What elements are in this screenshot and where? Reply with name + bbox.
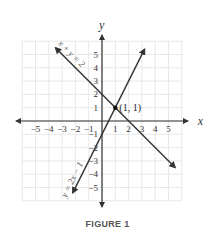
figure-caption: FIGURE 1 (0, 219, 215, 229)
y-tick-label: −1 (88, 129, 98, 139)
point-label: (1, 1) (119, 102, 141, 114)
series-label: y = 2x − 1 (59, 160, 85, 199)
x-tick-label: −5 (31, 124, 41, 134)
x-tick-label: −4 (44, 124, 54, 134)
axes: xy (16, 18, 204, 207)
y-axis-label: y (98, 18, 105, 32)
y-tick-label: 4 (94, 63, 99, 73)
y-tick-label: −4 (88, 169, 98, 179)
x-tick-label: 2 (126, 124, 131, 134)
y-tick-label: −5 (88, 183, 98, 193)
intersection-point (113, 106, 117, 110)
x-tick-label: 5 (166, 124, 171, 134)
y-tick-label: 5 (94, 50, 99, 60)
x-tick-label: −3 (57, 124, 67, 134)
coordinate-plane: xy −5−4−3−2−112345−5−4−3−2−112345 x + y … (0, 0, 215, 238)
x-tick-label: −2 (71, 124, 81, 134)
y-tick-label: 2 (94, 89, 99, 99)
x-tick-label: 4 (153, 124, 158, 134)
y-tick-label: 1 (94, 103, 99, 113)
y-tick-label: 3 (94, 76, 99, 86)
x-tick-label: 1 (113, 124, 118, 134)
x-axis-label: x (197, 114, 204, 128)
